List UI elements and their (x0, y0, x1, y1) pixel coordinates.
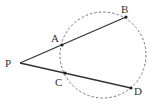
point-B (124, 15, 127, 18)
secant-PD (20, 63, 131, 88)
point-C (63, 71, 66, 74)
point-D (129, 86, 132, 89)
secant-PB (20, 17, 126, 63)
point-A (60, 43, 63, 46)
label-B: B (121, 3, 128, 15)
label-D: D (134, 85, 142, 97)
geometry-diagram: P A B C D (0, 0, 155, 105)
label-P: P (5, 57, 11, 69)
label-A: A (51, 32, 59, 44)
label-C: C (55, 76, 62, 88)
